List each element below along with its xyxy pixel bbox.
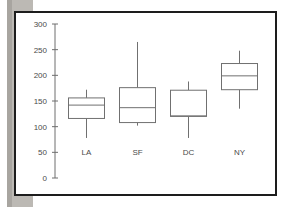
y-axis-tick-label: 150	[34, 97, 48, 106]
y-axis-tick-label: 50	[38, 148, 47, 157]
figure-frame: 050100150200250300LASFDCNY	[14, 11, 277, 196]
box-body	[120, 88, 156, 123]
box-body	[69, 98, 105, 119]
box-body	[171, 90, 207, 116]
y-axis-tick-label: 0	[43, 174, 48, 183]
box-plot-svg: 050100150200250300LASFDCNY	[16, 13, 275, 194]
category-label-la: LA	[82, 148, 92, 157]
category-label-sf: SF	[132, 148, 142, 157]
category-label-dc: DC	[183, 148, 195, 157]
y-axis-tick-label: 250	[34, 46, 48, 55]
y-axis-tick-label: 300	[34, 20, 48, 29]
page-root: 050100150200250300LASFDCNY	[0, 0, 291, 207]
box-plot-chart: 050100150200250300LASFDCNY	[16, 13, 275, 194]
category-label-ny: NY	[234, 148, 246, 157]
y-axis-tick-label: 200	[34, 71, 48, 80]
y-axis-tick-label: 100	[34, 123, 48, 132]
scan-shadow-edge	[7, 0, 12, 207]
box-body	[222, 64, 258, 90]
